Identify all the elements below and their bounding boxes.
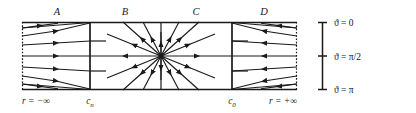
ray <box>161 34 215 56</box>
theta-label-pi: ϑ = π <box>334 85 354 95</box>
label-c0: c0 <box>228 96 236 109</box>
ray <box>123 22 161 56</box>
label-r-minus-infinity: r = −∞ <box>22 96 50 106</box>
flowline <box>232 67 297 71</box>
flowline <box>232 41 297 45</box>
phase-portrait-figure: A B C D <box>0 0 416 113</box>
ray <box>161 22 199 56</box>
ray <box>161 56 199 90</box>
center-source-node <box>159 54 164 59</box>
panel-label-a: A <box>53 6 61 17</box>
bottom-axis-labels: r = −∞ cn c0 r = +∞ <box>22 96 297 109</box>
region-d-flowlines <box>232 23 297 89</box>
panel-label-b: B <box>122 6 129 17</box>
ray <box>161 56 179 90</box>
ray <box>107 34 161 56</box>
panel-label-c: C <box>192 6 200 17</box>
label-cn: cn <box>86 96 94 109</box>
ray <box>143 56 161 90</box>
theta-label-0: ϑ = 0 <box>334 18 354 28</box>
theta-legend: ϑ = 0 ϑ = π/2 ϑ = π <box>318 18 361 95</box>
flowline <box>22 67 90 71</box>
ray <box>123 56 161 90</box>
label-r-plus-infinity: r = +∞ <box>269 96 297 106</box>
ray <box>107 56 161 78</box>
panel-label-d: D <box>259 6 268 17</box>
ray <box>143 22 161 56</box>
theta-label-half-pi: ϑ = π/2 <box>334 52 361 62</box>
ray <box>161 56 215 78</box>
ray <box>161 22 179 56</box>
panel-labels: A B C D <box>53 6 268 17</box>
diagram-canvas: A B C D <box>0 0 416 113</box>
region-a-flowlines <box>22 23 90 89</box>
flowline <box>22 41 90 45</box>
